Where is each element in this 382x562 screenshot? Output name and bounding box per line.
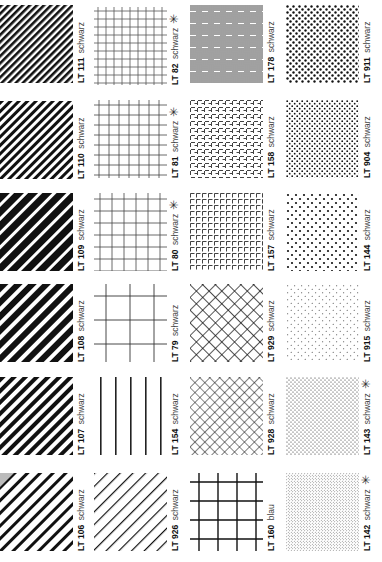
pattern-diagonal-lines-medium <box>0 101 73 179</box>
swatch-lt107: LT 107 schwarz <box>0 377 88 463</box>
pattern-diagonal-thin-lines <box>94 473 167 551</box>
swatch-lt80: LT 80 schwarz✳ <box>94 193 182 279</box>
asterisk-icon: ✳ <box>359 475 373 485</box>
pattern-dots-large <box>286 5 359 83</box>
swatch-lt158: LT 158 schwarz <box>190 100 278 186</box>
swatch-label: LT 160 blau <box>265 500 276 551</box>
swatch-lt110: LT 110 schwarz <box>0 101 88 187</box>
pattern-diagonal-lines-fine <box>0 5 73 83</box>
swatch-label: LT 109 schwarz <box>75 205 86 271</box>
swatch-lt178: LT 178 schwarz <box>190 5 278 91</box>
pattern-dots-sparse-large <box>286 193 359 271</box>
pattern-grid-medium <box>94 100 167 178</box>
pattern-diagonal-lines-bold <box>0 193 73 271</box>
swatch-lt81: LT 81 schwarz✳ <box>94 100 182 186</box>
swatch-label: LT 81 schwarz✳ <box>169 107 180 178</box>
pattern-grid-very-coarse <box>94 284 167 362</box>
swatch-label: LT 106 schwarz <box>75 485 86 551</box>
pattern-dots-small <box>286 377 359 455</box>
swatch-label: LT 143 schwarz✳ <box>361 379 372 455</box>
swatch-label: LT 154 schwarz <box>169 389 180 455</box>
swatch-lt143: LT 143 schwarz✳ <box>286 377 374 463</box>
swatch-label: LT 79 schwarz <box>169 301 180 362</box>
swatch-label: LT 144 schwarz <box>361 205 372 271</box>
swatch-lt142: LT 142 schwarz✳ <box>286 473 374 559</box>
pattern-sheet: LT 111 schwarz LT 82 schwarz✳ LT 178 sch… <box>0 0 382 562</box>
swatch-lt904: LT 904 schwarz <box>286 100 374 186</box>
swatch-label: LT 111 schwarz <box>75 18 86 83</box>
swatch-label: LT 158 schwarz <box>265 112 276 178</box>
asterisk-icon: ✳ <box>167 14 181 24</box>
pattern-dots-medium <box>286 100 359 178</box>
swatch-lt915: LT 915 schwarz <box>286 284 374 370</box>
pattern-diagonal-lines-wide <box>0 473 73 551</box>
swatch-label: LT 157 schwarz <box>265 205 276 271</box>
swatch-label: LT 110 schwarz <box>75 114 86 179</box>
swatch-lt144: LT 144 schwarz <box>286 193 374 279</box>
pattern-basketweave <box>190 5 263 83</box>
swatch-lt108: LT 108 schwarz <box>0 284 88 370</box>
asterisk-icon: ✳ <box>359 379 373 389</box>
swatch-label: LT 80 schwarz✳ <box>169 200 180 271</box>
swatch-label: LT 928 schwarz <box>265 389 276 455</box>
asterisk-icon: ✳ <box>167 107 181 117</box>
swatch-lt926: LT 926 schwarz <box>94 473 182 559</box>
swatch-lt154: LT 154 schwarz <box>94 377 182 463</box>
swatch-label: LT 911 schwarz <box>361 18 372 83</box>
swatch-lt928: LT 928 schwarz <box>190 377 278 463</box>
pattern-diagonal-lines-heavy-2 <box>0 377 73 455</box>
pattern-dashed-grid-offset <box>190 100 263 178</box>
swatch-label: LT 108 schwarz <box>75 296 86 362</box>
swatch-label: LT 915 schwarz <box>361 296 372 362</box>
swatch-lt160: LT 160 blau <box>190 473 278 559</box>
swatch-label: LT 142 schwarz✳ <box>361 475 372 551</box>
swatch-label: LT 926 schwarz <box>169 485 180 551</box>
swatch-lt111: LT 111 schwarz <box>0 5 88 91</box>
pattern-dots-tiny <box>286 473 359 551</box>
swatch-label: LT 178 schwarz <box>265 17 276 83</box>
swatch-lt106: LT 106 schwarz <box>0 473 88 559</box>
pattern-dashed-grid <box>190 193 263 271</box>
swatch-label: LT 929 schwarz <box>265 296 276 362</box>
swatch-lt911: LT 911 schwarz <box>286 5 374 91</box>
swatch-label: LT 904 schwarz <box>361 112 372 178</box>
pattern-diamond-crosshatch-fine <box>190 377 263 455</box>
swatch-lt82: LT 82 schwarz✳ <box>94 7 182 93</box>
swatch-label: LT 107 schwarz <box>75 389 86 455</box>
pattern-grid-coarse <box>94 193 167 271</box>
swatch-lt109: LT 109 schwarz <box>0 193 88 279</box>
asterisk-icon: ✳ <box>167 200 181 210</box>
swatch-lt79: LT 79 schwarz <box>94 284 182 370</box>
pattern-diagonal-lines-heavy <box>0 284 73 362</box>
swatch-lt157: LT 157 schwarz <box>190 193 278 279</box>
pattern-vertical-lines <box>94 377 167 455</box>
pattern-dots-sparse-small <box>286 284 359 362</box>
pattern-diamond-crosshatch-coarse <box>190 284 263 362</box>
pattern-grid-bold <box>190 473 263 551</box>
swatch-label: LT 82 schwarz✳ <box>169 14 180 85</box>
gray-corner-mark <box>0 473 14 487</box>
pattern-grid-fine <box>94 7 167 85</box>
swatch-lt929: LT 929 schwarz <box>190 284 278 370</box>
